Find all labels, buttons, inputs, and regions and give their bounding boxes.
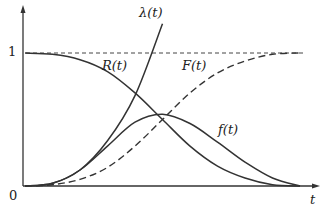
- tick-origin: 0: [9, 189, 17, 202]
- label-f: f(t): [218, 123, 238, 136]
- label-t-axis: t: [310, 193, 315, 206]
- series-lambda: [25, 24, 163, 186]
- label-R: R(t): [102, 59, 127, 72]
- tick-y-1: 1: [8, 45, 16, 58]
- x-axis-arrow-icon: [312, 184, 320, 189]
- series-f: [25, 114, 300, 186]
- reliability-chart: λ(t) R(t) F(t) f(t) t 1 0: [0, 0, 330, 211]
- series-F: [25, 53, 300, 186]
- label-F: F(t): [182, 59, 206, 72]
- label-lambda: λ(t): [139, 6, 163, 19]
- plot-area: [0, 0, 330, 211]
- y-axis-arrow-icon: [21, 5, 26, 13]
